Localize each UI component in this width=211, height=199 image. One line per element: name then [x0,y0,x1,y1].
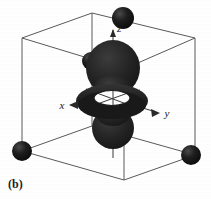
atom-bottom-left-front [12,141,32,161]
atom-top-back [112,7,134,29]
y-axis-arrowhead [151,109,160,117]
orbital-diagram: z x y [0,0,211,199]
z-axis-label: z [116,22,122,34]
figure-container: z x y (b) [0,0,211,199]
x-axis-arrowhead [69,101,78,109]
x-axis-label: x [59,99,65,111]
figure-caption: (b) [8,178,23,190]
atom-bottom-right-front [181,145,201,165]
z-axis-arrowhead [110,29,116,37]
y-axis-label: y [164,107,170,119]
